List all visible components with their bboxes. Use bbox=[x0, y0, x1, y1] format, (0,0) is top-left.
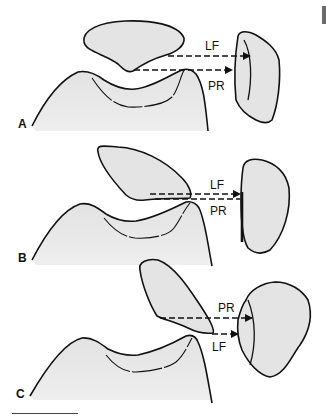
upper-tooth-shape bbox=[98, 146, 191, 200]
diagram-canvas: LF PR A LF PR B PR LF C bbox=[0, 0, 326, 419]
panel-label-c: C bbox=[16, 387, 25, 401]
scale-bar bbox=[12, 413, 78, 414]
upper-tooth-shape bbox=[140, 259, 214, 333]
arrow-label-lower: PR bbox=[210, 204, 227, 218]
panel-label-a: A bbox=[18, 117, 27, 131]
arrow-label-upper: PR bbox=[218, 301, 235, 315]
upper-tooth-shape bbox=[84, 21, 184, 72]
panel-a: LF PR A bbox=[18, 21, 280, 131]
arrow-label-upper: LF bbox=[205, 39, 219, 53]
lower-tooth-shape bbox=[32, 69, 208, 131]
arrow-label-lower: PR bbox=[208, 79, 225, 93]
panel-c: PR LF C bbox=[16, 259, 310, 403]
panel-label-b: B bbox=[18, 251, 27, 265]
cross-section-shape bbox=[238, 282, 311, 377]
cross-section-shape bbox=[235, 32, 280, 123]
arrow-label-lower: LF bbox=[212, 340, 226, 354]
panel-b: LF PR B bbox=[18, 146, 289, 266]
cross-section-shape bbox=[241, 159, 289, 253]
arrow-label-upper: LF bbox=[210, 178, 224, 192]
